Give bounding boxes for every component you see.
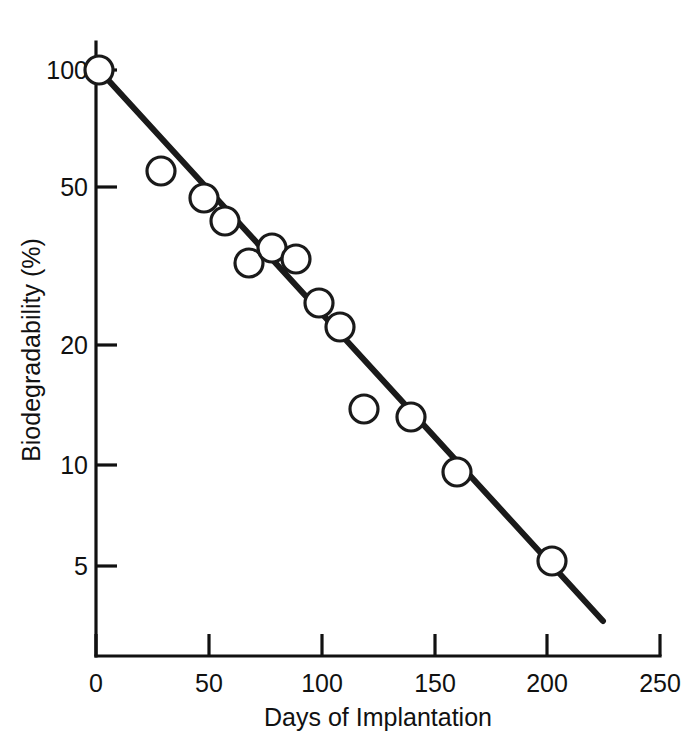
data-point[interactable]	[538, 547, 566, 575]
x-tick-label-250: 250	[639, 669, 681, 697]
axes-group	[96, 42, 660, 656]
x-tick-label-0: 0	[89, 669, 103, 697]
data-point[interactable]	[282, 245, 310, 273]
data-point[interactable]	[85, 56, 113, 84]
x-tick-label-50: 50	[195, 669, 223, 697]
semilog-scatter-plot: 100 50 20 10 5 0 50 100 150 200 250 Days…	[0, 0, 695, 734]
y-tick-marks	[96, 70, 117, 566]
x-tick-label-150: 150	[414, 669, 456, 697]
data-point[interactable]	[305, 289, 333, 317]
y-tick-labels: 100 50 20 10 5	[46, 56, 88, 580]
x-tick-marks	[96, 634, 660, 656]
y-axis-title: Biodegradability (%)	[17, 238, 45, 462]
y-tick-label-10: 10	[60, 451, 88, 479]
x-tick-label-100: 100	[301, 669, 343, 697]
biodegradability-figure: 100 50 20 10 5 0 50 100 150 200 250 Days…	[0, 0, 695, 734]
y-tick-label-5: 5	[74, 552, 88, 580]
x-axis-title: Days of Implantation	[264, 703, 492, 731]
data-point[interactable]	[190, 184, 218, 212]
y-tick-label-100: 100	[46, 56, 88, 84]
trend-line	[99, 70, 603, 621]
x-tick-labels: 0 50 100 150 200 250	[89, 669, 681, 697]
data-point[interactable]	[443, 458, 471, 486]
data-point[interactable]	[326, 313, 354, 341]
y-tick-label-50: 50	[60, 173, 88, 201]
data-point[interactable]	[350, 395, 378, 423]
x-tick-label-200: 200	[526, 669, 568, 697]
data-point[interactable]	[397, 403, 425, 431]
data-point[interactable]	[147, 157, 175, 185]
y-tick-label-20: 20	[60, 331, 88, 359]
data-point[interactable]	[211, 207, 239, 235]
